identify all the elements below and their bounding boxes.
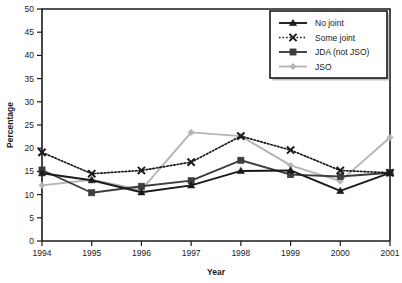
- y-tick-label: 15: [25, 166, 35, 176]
- x-tick-label: 1998: [231, 248, 250, 258]
- x-tick-label: 1996: [132, 248, 151, 258]
- y-tick-label: 25: [25, 120, 35, 130]
- series-jso: [39, 129, 393, 193]
- legend-label: JSO: [315, 62, 332, 72]
- chart-container: 05101520253035404550Percentage1994199519…: [0, 0, 402, 283]
- marker-square: [238, 157, 244, 163]
- x-tick-label: 1995: [82, 248, 101, 258]
- y-tick-label: 45: [25, 27, 35, 37]
- legend-label: Some joint: [315, 33, 356, 43]
- marker-diamond: [39, 182, 45, 188]
- x-axis-title: Year: [207, 267, 226, 277]
- y-axis: 05101520253035404550Percentage: [5, 4, 42, 246]
- line-chart: 05101520253035404550Percentage1994199519…: [0, 0, 402, 283]
- x-tick-label: 2000: [331, 248, 350, 258]
- legend-label: JDA (not JSO): [315, 47, 369, 57]
- y-tick-label: 20: [25, 143, 35, 153]
- y-axis-title: Percentage: [5, 102, 15, 148]
- marker-square: [290, 49, 296, 55]
- y-tick-label: 40: [25, 50, 35, 60]
- x-tick-label: 2001: [381, 248, 400, 258]
- y-tick-label: 50: [25, 4, 35, 14]
- y-tick-label: 10: [25, 190, 35, 200]
- y-tick-label: 35: [25, 74, 35, 84]
- x-tick-label: 1994: [33, 248, 52, 258]
- y-tick-label: 5: [29, 213, 34, 223]
- x-axis: 19941995199619971998199920002001Year: [33, 241, 400, 277]
- legend-item-some-joint[interactable]: Some joint: [279, 33, 356, 43]
- legend-label: No joint: [315, 18, 344, 28]
- y-tick-label: 30: [25, 97, 35, 107]
- marker-square: [89, 190, 95, 196]
- y-tick-label: 0: [29, 236, 34, 246]
- x-tick-label: 1999: [281, 248, 300, 258]
- x-tick-label: 1997: [182, 248, 201, 258]
- marker-square: [337, 173, 343, 179]
